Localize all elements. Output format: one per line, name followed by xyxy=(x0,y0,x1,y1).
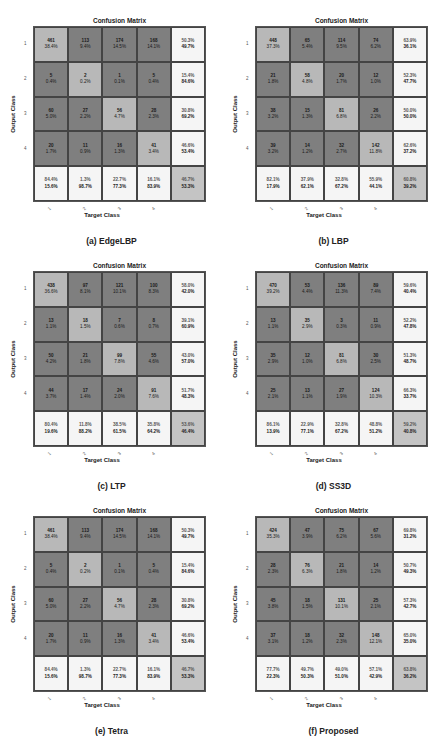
row-error: 35.0% xyxy=(403,639,416,645)
matrix-cell: 5 0.4% xyxy=(137,62,171,97)
matrix-cell: 113 9.4% xyxy=(68,517,102,552)
col-error: 44.1% xyxy=(369,184,382,190)
x-tick-label: 4 xyxy=(373,696,378,701)
cell-percent: 1.2% xyxy=(302,149,312,155)
col-error: 77.3% xyxy=(113,184,126,190)
cell-percent: 14.5% xyxy=(113,44,126,50)
x-tick-label: 2 xyxy=(303,696,308,701)
matrix-cell: 41 3.4% xyxy=(137,621,171,656)
row-summary-cell: 59.6% 40.4% xyxy=(393,272,427,307)
cell-percent: 2.9% xyxy=(268,359,278,365)
matrix-title: Confusion Matrix xyxy=(33,507,206,514)
col-summary-cell: 35.8% 64.2% xyxy=(137,411,171,446)
cell-percent: 0.7% xyxy=(148,324,158,330)
row-summary-cell: 52.3% 47.7% xyxy=(393,62,427,97)
y-tick-label: 4 xyxy=(24,146,27,151)
matrix-cell: 18 1.2% xyxy=(290,621,324,656)
matrix-cell: 38 3.2% xyxy=(256,97,290,132)
matrix-cell: 16 1.3% xyxy=(102,131,136,166)
overall-accuracy-cell: 46.7% 53.3% xyxy=(171,656,205,691)
cell-percent: 1.9% xyxy=(336,394,346,400)
cell-percent: 6.8% xyxy=(336,359,346,365)
matrix-cell: 14 1.2% xyxy=(290,131,324,166)
x-tick-label: 2 xyxy=(303,451,308,456)
y-axis-label: Output Class xyxy=(232,585,238,622)
matrix-cell: 168 14.1% xyxy=(137,517,171,552)
matrix-grid: 448 37.3% 65 5.4% 114 9.5% 74 6.2% 63.9%… xyxy=(255,26,428,202)
matrix-cell: 81 6.8% xyxy=(324,342,358,377)
cell-percent: 38.4% xyxy=(45,44,58,50)
overall-accuracy-cell: 59.2% 40.8% xyxy=(393,411,427,446)
matrix-cell: 74 6.2% xyxy=(359,27,393,62)
row-error: 36.1% xyxy=(403,44,416,50)
cell-percent: 5.0% xyxy=(46,114,56,120)
cell-percent: 11.3% xyxy=(335,289,348,295)
matrix-cell: 20 1.7% xyxy=(34,131,68,166)
matrix-cell: 470 39.2% xyxy=(256,272,290,307)
matrix-cell: 174 14.5% xyxy=(102,27,136,62)
matrix-cell: 60 5.0% xyxy=(34,587,68,622)
matrix-grid: 461 38.4% 113 9.4% 174 14.5% 168 14.1% 5… xyxy=(33,516,206,692)
x-axis-label: Target Class xyxy=(255,457,393,463)
col-error: 67.2% xyxy=(335,429,348,435)
row-summary-cell: 30.8% 69.2% xyxy=(171,587,205,622)
x-tick-label: 2 xyxy=(81,451,86,456)
matrix-cell: 75 6.2% xyxy=(324,517,358,552)
matrix-cell: 21 1.8% xyxy=(256,62,290,97)
confusion-matrix-panel: Confusion Matrix 448 37.3% 65 5.4% 114 9… xyxy=(222,0,445,245)
row-error: 53.4% xyxy=(181,149,194,155)
col-summary-cell: 49.7% 50.3% xyxy=(290,656,324,691)
row-error: 84.6% xyxy=(181,569,194,575)
matrix-cell: 28 2.3% xyxy=(137,97,171,132)
overall-error: 36.2% xyxy=(403,674,416,680)
y-tick-label: 2 xyxy=(246,76,249,81)
matrix-cell: 55 4.6% xyxy=(137,342,171,377)
matrix-cell: 35 2.9% xyxy=(290,307,324,342)
col-summary-cell: 22.9% 77.1% xyxy=(290,411,324,446)
x-axis-label: Target Class xyxy=(33,702,171,708)
matrix-cell: 168 14.1% xyxy=(137,27,171,62)
matrix-cell: 39 3.2% xyxy=(256,131,290,166)
x-tick-label: 2 xyxy=(303,206,308,211)
row-summary-cell: 51.3% 48.7% xyxy=(393,342,427,377)
x-tick-label: 4 xyxy=(151,206,156,211)
matrix-cell: 13 1.1% xyxy=(290,376,324,411)
col-summary-cell: 11.8% 88.2% xyxy=(68,411,102,446)
matrix-cell: 56 4.7% xyxy=(102,97,136,132)
cell-percent: 35.3% xyxy=(267,534,280,540)
y-axis-label: Output Class xyxy=(232,340,238,377)
matrix-cell: 438 36.6% xyxy=(34,272,68,307)
y-tick-label: 4 xyxy=(246,391,249,396)
x-tick-label: 3 xyxy=(116,696,121,701)
y-tick-label: 3 xyxy=(24,356,27,361)
cell-percent: 1.1% xyxy=(268,324,278,330)
matrix-cell: 2 0.2% xyxy=(68,62,102,97)
matrix-cell: 18 1.5% xyxy=(68,307,102,342)
matrix-cell: 60 5.0% xyxy=(34,97,68,132)
row-error: 40.4% xyxy=(403,289,416,295)
col-summary-cell: 77.7% 22.3% xyxy=(256,656,290,691)
cell-percent: 9.4% xyxy=(80,534,90,540)
overall-error: 53.3% xyxy=(181,184,194,190)
cell-percent: 4.7% xyxy=(114,114,124,120)
matrix-cell: 113 9.4% xyxy=(68,27,102,62)
col-summary-cell: 16.1% 83.9% xyxy=(137,166,171,201)
x-axis-label: Target Class xyxy=(255,702,393,708)
matrix-title: Confusion Matrix xyxy=(33,17,206,24)
matrix-cell: 41 3.4% xyxy=(137,131,171,166)
confusion-matrix-panel: Confusion Matrix 438 36.6% 97 8.1% 121 1… xyxy=(0,245,223,490)
matrix-cell: 5 0.4% xyxy=(137,552,171,587)
x-tick-label: 4 xyxy=(151,451,156,456)
cell-percent: 1.1% xyxy=(46,324,56,330)
row-error: 84.6% xyxy=(181,79,194,85)
matrix-cell: 28 2.3% xyxy=(137,587,171,622)
cell-percent: 2.7% xyxy=(336,149,346,155)
row-error: 42.0% xyxy=(181,289,194,295)
x-tick-label: 1 xyxy=(269,451,274,456)
row-summary-cell: 15.4% 84.6% xyxy=(171,552,205,587)
cell-percent: 39.2% xyxy=(267,289,280,295)
matrix-cell: 32 2.7% xyxy=(324,131,358,166)
matrix-cell: 121 10.1% xyxy=(102,272,136,307)
y-tick-label: 2 xyxy=(246,321,249,326)
y-axis-label: Output Class xyxy=(232,95,238,132)
